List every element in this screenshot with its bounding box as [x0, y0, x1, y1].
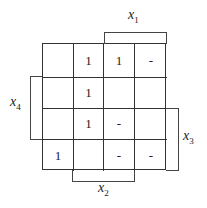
cell-r0-c0 — [43, 44, 74, 78]
cell-r2-c3 — [135, 109, 167, 140]
cell-r1-c3 — [135, 78, 167, 109]
cell-r0-c2: 1 — [104, 44, 135, 78]
cell-r2-c2: - — [104, 109, 135, 140]
cell-r1-c2 — [104, 78, 135, 109]
cell-r0-c3: - — [135, 44, 167, 78]
karnaugh-map-grid: 1 1 - 1 1 - 1 - - — [42, 43, 166, 170]
x1-label: x1 — [128, 7, 139, 25]
cell-r3-c3: - — [135, 140, 167, 171]
cell-r3-c1 — [74, 140, 104, 171]
x2-label: x2 — [98, 180, 109, 198]
x1-bracket — [104, 32, 167, 44]
x4-bracket — [30, 76, 42, 140]
cell-r2-c0 — [43, 109, 74, 140]
x3-bracket — [166, 108, 179, 171]
cell-r2-c1: 1 — [74, 109, 104, 140]
cell-r3-c2: - — [104, 140, 135, 171]
x3-label: x3 — [183, 128, 194, 146]
x4-label: x4 — [10, 94, 21, 112]
cell-r0-c1: 1 — [74, 44, 104, 78]
cell-r1-c0 — [43, 78, 74, 109]
cell-r1-c1: 1 — [74, 78, 104, 109]
cell-r3-c0: 1 — [43, 140, 74, 171]
